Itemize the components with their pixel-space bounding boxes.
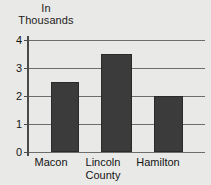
- y-tick-label-1: 1: [16, 119, 22, 130]
- bar-hamilton: [154, 96, 183, 152]
- chart-title-line-1: In: [4, 2, 88, 14]
- tick-mark-3: [24, 68, 29, 69]
- x-label-lincoln-county-line-2: County: [79, 169, 127, 182]
- y-tick-label-4: 4: [16, 35, 22, 46]
- y-tick-label-0: 0: [16, 147, 22, 158]
- chart-title: In Thousands: [4, 2, 88, 26]
- tick-mark-0: [24, 152, 29, 153]
- x-label-macon: Macon: [29, 156, 73, 169]
- tick-mark-1: [24, 124, 29, 125]
- bar-chart-figure: In Thousands 4 3 2 1 0 Macon: [0, 0, 211, 185]
- bar-lincoln-county: [101, 54, 132, 152]
- x-label-hamilton-line-1: Hamilton: [131, 156, 185, 169]
- x-label-macon-line-1: Macon: [29, 156, 73, 169]
- y-tick-label-2: 2: [16, 91, 22, 102]
- x-label-hamilton: Hamilton: [131, 156, 185, 169]
- tick-mark-4: [24, 40, 29, 41]
- tick-mark-2: [24, 96, 29, 97]
- gridline-4: 4: [28, 40, 205, 41]
- chart-title-line-2: Thousands: [4, 14, 88, 26]
- bar-macon: [51, 82, 79, 152]
- gridline-0: 0: [28, 152, 205, 153]
- plot-area: 4 3 2 1 0: [28, 40, 205, 152]
- x-label-lincoln-county-line-1: Lincoln: [79, 156, 127, 169]
- x-label-lincoln-county: Lincoln County: [79, 156, 127, 181]
- y-tick-label-3: 3: [16, 63, 22, 74]
